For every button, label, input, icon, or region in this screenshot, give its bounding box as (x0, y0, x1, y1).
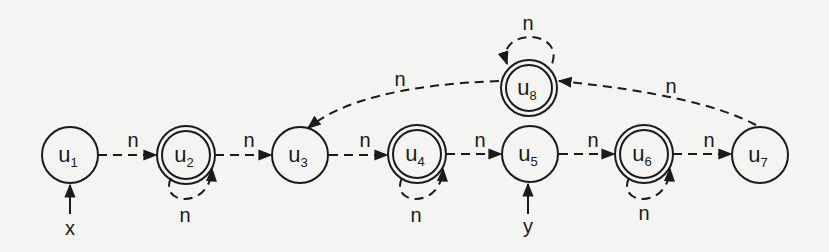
edge-label-loop-u2: n (179, 204, 190, 226)
edge-label-u4-u5: n (474, 129, 485, 151)
edge-label-u3-u4: n (359, 129, 370, 151)
edge-label-u8-u3: n (394, 68, 405, 90)
diagram-svg: u1 u2 u3 u4 u5 u6 u7 u8 n n n n n n n n … (0, 0, 829, 252)
node-label-u8: u8 (517, 75, 536, 103)
self-loop-u6 (627, 169, 670, 199)
pointer-var-y: y (523, 215, 533, 237)
edge-label-loop-u8: n (522, 12, 533, 34)
edge-label-u1-u2: n (127, 129, 138, 151)
node-label-u4: u4 (405, 141, 424, 169)
edge-u7-u8 (559, 81, 756, 125)
node-label-u6: u6 (632, 141, 651, 169)
node-label-u1: u1 (58, 142, 77, 170)
self-loop-u4 (400, 169, 443, 199)
node-label-u3: u3 (288, 142, 307, 170)
edge-label-u7-u8: n (665, 75, 676, 97)
shape-graph-diagram: u1 u2 u3 u4 u5 u6 u7 u8 n n n n n n n n … (0, 0, 829, 252)
node-label-u2: u2 (174, 142, 193, 170)
pointer-var-x: x (65, 217, 75, 239)
edge-label-u5-u6: n (587, 129, 598, 151)
node-label-u5: u5 (518, 141, 537, 169)
node-label-u7: u7 (748, 142, 767, 170)
edge-label-u6-u7: n (703, 129, 714, 151)
edge-label-u2-u3: n (243, 129, 254, 151)
edge-label-loop-u4: n (410, 204, 421, 226)
edge-label-loop-u6: n (638, 202, 649, 224)
